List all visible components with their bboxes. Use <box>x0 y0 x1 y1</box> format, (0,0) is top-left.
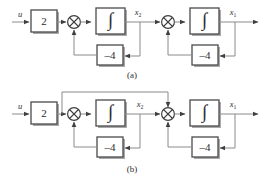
state-label-x1-a: x1 <box>229 7 237 18</box>
feedback-gain-1-b-label: –4 <box>104 141 117 153</box>
gain-block-2-b-label: 2 <box>41 107 47 119</box>
feedback-gain-2-a-label: –4 <box>199 49 212 61</box>
state-label-x2-b: x2 <box>136 99 144 110</box>
input-label-u-b: u <box>18 101 22 111</box>
figure-block-diagrams: 2 ∫ x2 ∫ x1 <box>0 0 264 181</box>
feedback-gain-2-b-label: –4 <box>199 141 212 153</box>
state-label-x2-a: x2 <box>134 7 142 18</box>
caption-a: (a) <box>127 70 137 80</box>
gain-block-2-a-label: 2 <box>41 15 47 27</box>
caption-b: (b) <box>127 164 138 174</box>
input-label-u-a: u <box>18 9 22 19</box>
diagram-b: 2 ∫ x2 ∫ x1 <box>0 84 264 181</box>
state-label-x1-b: x1 <box>229 99 237 110</box>
diagram-a: 2 ∫ x2 ∫ x1 <box>0 0 264 84</box>
feedback-gain-1-a-label: –4 <box>104 49 117 61</box>
